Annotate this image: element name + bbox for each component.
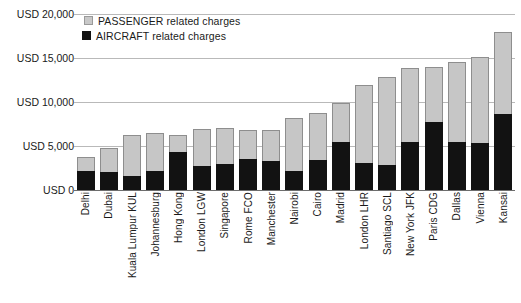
stacked-bar[interactable] <box>262 130 280 190</box>
x-axis-tick-label: Cairo <box>312 192 323 219</box>
y-axis-tick-label: USD 0 <box>43 184 74 196</box>
stacked-bar[interactable] <box>309 113 327 190</box>
x-label-slot: Kansai <box>492 192 515 226</box>
x-label-slot: Nairobi <box>283 192 306 227</box>
stacked-bar[interactable] <box>494 32 512 190</box>
x-label-slot: Johannesburg <box>144 192 167 260</box>
x-label-slot: Dubai <box>97 192 120 222</box>
bar-segment-aircraft <box>100 172 118 190</box>
stacked-bar-chart: USD 0USD 5,000USD 10,000USD 15,000USD 20… <box>0 0 521 303</box>
stacked-bar[interactable] <box>378 77 396 191</box>
x-label-slot: New York JFK <box>399 192 422 259</box>
stacked-bar[interactable] <box>169 135 187 190</box>
x-label-slot: Manchester <box>260 192 283 248</box>
y-axis: USD 0USD 5,000USD 10,000USD 15,000USD 20… <box>0 0 74 194</box>
bar-segment-aircraft <box>425 122 443 190</box>
bar-segment-passenger <box>355 85 373 162</box>
stacked-bar[interactable] <box>216 128 234 190</box>
bar-segment-passenger <box>378 77 396 166</box>
bar-slot <box>190 14 213 190</box>
stacked-bar[interactable] <box>77 157 95 190</box>
stacked-bar[interactable] <box>332 103 350 190</box>
bar-slot <box>144 14 167 190</box>
bar-segment-passenger <box>146 133 164 171</box>
bar-slot <box>167 14 190 190</box>
stacked-bar[interactable] <box>401 68 419 190</box>
x-axis-tick-label: London LGW <box>196 192 207 255</box>
x-label-slot: Santiago SCL <box>376 192 399 258</box>
bar-segment-aircraft <box>216 164 234 190</box>
bar-segment-passenger <box>123 135 141 176</box>
bar-segment-passenger <box>239 130 257 159</box>
x-axis-tick-label: Johannesburg <box>150 192 161 260</box>
x-label-slot: London LGW <box>190 192 213 255</box>
y-axis-tick-label: USD 15,000 <box>17 52 74 64</box>
stacked-bar[interactable] <box>355 85 373 190</box>
bar-segment-passenger <box>448 62 466 142</box>
bar-slot <box>422 14 445 190</box>
bar-segment-aircraft <box>355 163 373 190</box>
x-label-slot: Paris CDG <box>422 192 445 244</box>
bar-segment-aircraft <box>401 142 419 190</box>
bar-slot <box>329 14 352 190</box>
bar-segment-aircraft <box>77 171 95 190</box>
bar-segment-passenger <box>100 148 118 173</box>
bar-segment-aircraft <box>262 161 280 190</box>
x-axis-tick-label: London LHR <box>359 192 370 252</box>
bar-slot <box>120 14 143 190</box>
bar-segment-aircraft <box>239 159 257 190</box>
bar-segment-aircraft <box>309 160 327 190</box>
bar-segment-aircraft <box>169 152 187 190</box>
bar-slot <box>468 14 491 190</box>
bar-segment-aircraft <box>123 176 141 190</box>
x-axis-tick-label: New York JFK <box>405 192 416 259</box>
x-axis-labels: DelhiDubaiKuala Lumpur KULJohannesburgHo… <box>74 192 515 300</box>
stacked-bar[interactable] <box>146 133 164 190</box>
x-axis-tick-label: Kansai <box>498 192 509 226</box>
bar-group <box>74 14 515 190</box>
x-axis-tick-label: Dallas <box>451 192 462 223</box>
bar-slot <box>97 14 120 190</box>
bar-segment-aircraft <box>448 142 466 190</box>
x-label-slot: Delhi <box>74 192 97 218</box>
bar-slot <box>236 14 259 190</box>
stacked-bar[interactable] <box>193 129 211 190</box>
bar-slot <box>492 14 515 190</box>
bar-segment-passenger <box>193 129 211 166</box>
stacked-bar[interactable] <box>100 148 118 190</box>
x-axis-tick-label: Paris CDG <box>428 192 439 244</box>
x-axis-tick-label: Santiago SCL <box>382 192 393 258</box>
stacked-bar[interactable] <box>123 135 141 190</box>
stacked-bar[interactable] <box>471 57 489 190</box>
stacked-bar[interactable] <box>239 130 257 190</box>
bar-slot <box>213 14 236 190</box>
plot-area <box>74 14 515 190</box>
x-axis-tick-label: Manchester <box>266 192 277 248</box>
bar-segment-passenger <box>216 128 234 164</box>
x-label-slot: Singapore <box>213 192 236 242</box>
bar-segment-aircraft <box>146 171 164 190</box>
bar-slot <box>74 14 97 190</box>
stacked-bar[interactable] <box>448 62 466 190</box>
x-label-slot: Cairo <box>306 192 329 219</box>
bar-segment-passenger <box>471 57 489 143</box>
bar-slot <box>260 14 283 190</box>
x-axis-tick-label: Dubai <box>103 192 114 222</box>
stacked-bar[interactable] <box>285 118 303 190</box>
bar-segment-passenger <box>332 103 350 142</box>
bar-slot <box>352 14 375 190</box>
x-label-slot: London LHR <box>352 192 375 252</box>
bar-segment-passenger <box>77 157 95 171</box>
bar-segment-passenger <box>494 32 512 115</box>
bar-segment-passenger <box>262 130 280 161</box>
bar-segment-aircraft <box>332 142 350 190</box>
bar-segment-aircraft <box>378 165 396 190</box>
stacked-bar[interactable] <box>425 67 443 190</box>
x-axis-tick-label: Nairobi <box>289 192 300 227</box>
bar-segment-passenger <box>309 113 327 161</box>
bar-slot <box>283 14 306 190</box>
bar-segment-aircraft <box>471 143 489 190</box>
x-label-slot: Vienna <box>468 192 491 227</box>
bar-slot <box>306 14 329 190</box>
x-axis-tick-label: Delhi <box>80 192 91 218</box>
